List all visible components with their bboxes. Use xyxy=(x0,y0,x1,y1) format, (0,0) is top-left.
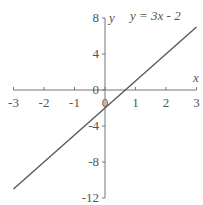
y-tick-label: -4 xyxy=(88,118,99,133)
x-tick-label: -1 xyxy=(69,95,80,110)
y-tick-label: 0 xyxy=(93,82,100,97)
line-chart: -3-2-10123840-4-8-12xyy = 3x - 2 xyxy=(0,0,203,205)
y-tick-label: -8 xyxy=(88,154,99,169)
x-tick-label: -2 xyxy=(39,95,50,110)
x-tick-label: -3 xyxy=(8,95,19,110)
y-tick-label: 8 xyxy=(93,10,100,25)
y-tick-label: -12 xyxy=(82,190,99,205)
y-tick-label: 4 xyxy=(93,46,100,61)
x-axis-label: x xyxy=(192,70,199,85)
x-tick-label: 2 xyxy=(163,95,170,110)
x-tick-label: 3 xyxy=(193,95,200,110)
x-tick-label: 1 xyxy=(132,95,139,110)
y-axis-label: y xyxy=(107,10,115,25)
equation-label: y = 3x - 2 xyxy=(128,8,181,23)
